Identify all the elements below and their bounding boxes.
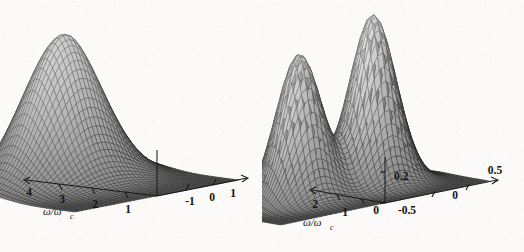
right-angle-tick-0: 0 [452,189,458,201]
right-vertical-tick-02: 0.2 [394,170,409,182]
right-vertical-tick-0: 0 [373,204,379,216]
left-angle-tick-neg1: -1 [185,195,195,207]
right-angle-tick-05: 0.5 [488,164,503,176]
figure-svg: 4 3 2 1 ω/ω c -1 0 1 [0,0,524,252]
right-omega-axis-label-main: ω/ω [303,216,322,228]
figure-root: 4 3 2 1 ω/ω c -1 0 1 [0,0,524,252]
left-omega-tick-3: 3 [59,193,65,205]
left-angle-tick-1: 1 [230,187,236,199]
right-omega-axis-label-sub: c [330,223,334,232]
left-omega-tick-1: 1 [125,203,131,215]
left-omega-tick-2: 2 [92,198,98,210]
right-omega-tick-1: 1 [342,206,348,218]
left-omega-axis-label-main: ω/ω [43,205,62,217]
left-omega-axis-label-sub: c [70,212,74,221]
left-angle-tick-0: 0 [209,191,215,203]
right-omega-tick-2: 2 [312,198,318,210]
right-angle-tick-neg05: -0.5 [398,204,416,216]
left-omega-tick-4: 4 [26,186,32,198]
